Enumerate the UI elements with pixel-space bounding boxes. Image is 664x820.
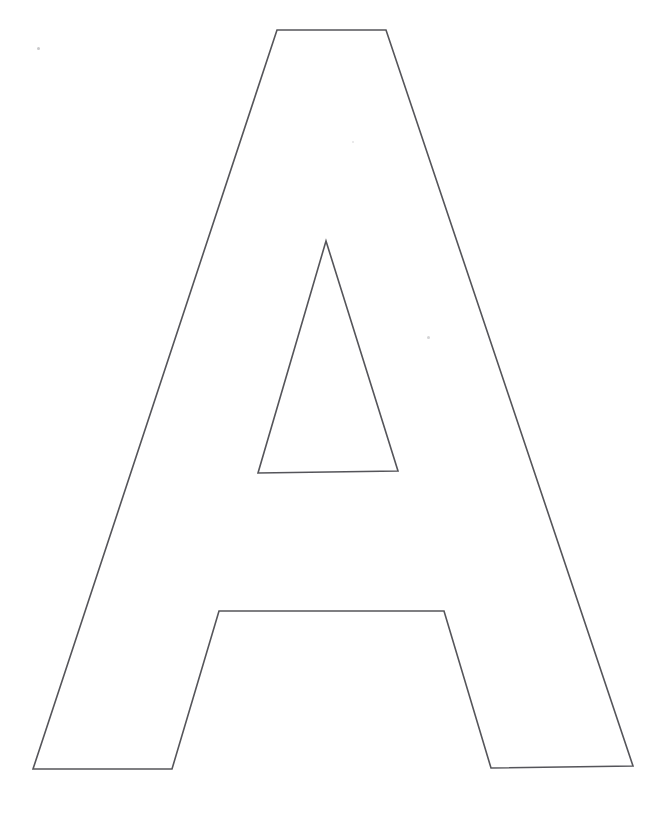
page-canvas: Letter A Template	[0, 0, 664, 820]
letter-a-artboard	[0, 0, 664, 820]
artboard-background	[0, 0, 664, 820]
